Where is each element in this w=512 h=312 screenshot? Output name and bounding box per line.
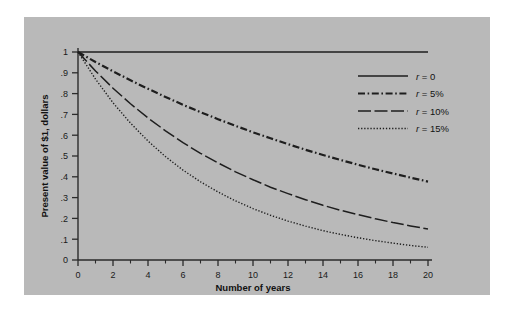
y-axis-title: Present value of $1, dollars <box>39 94 50 217</box>
y-tick-label: .4 <box>60 172 68 182</box>
y-tick-label: .9 <box>60 68 68 78</box>
x-tick-label: 18 <box>388 270 398 280</box>
y-tick-label: .7 <box>60 110 68 120</box>
x-axis-title: Number of years <box>216 282 291 293</box>
x-tick-label: 20 <box>423 270 433 280</box>
series-line-1 <box>78 52 428 182</box>
y-tick-label: .2 <box>60 214 68 224</box>
x-tick-label: 8 <box>215 270 220 280</box>
y-tick-label: .5 <box>60 151 68 161</box>
x-tick-label: 12 <box>283 270 293 280</box>
legend-value-1: = 5% <box>419 88 444 99</box>
y-tick-label: .8 <box>60 89 68 99</box>
x-tick-label: 2 <box>110 270 115 280</box>
y-tick-label: .1 <box>60 235 68 245</box>
legend-value-0: = 0 <box>419 71 435 82</box>
figure-container: 0.1.2.3.4.5.6.7.8.9102468101214161820Num… <box>0 0 512 312</box>
x-tick-label: 4 <box>145 270 150 280</box>
legend-label-3: r = 15% <box>416 123 450 134</box>
x-tick-label: 16 <box>353 270 363 280</box>
y-tick-label: .3 <box>60 193 68 203</box>
legend-value-3: = 15% <box>419 123 449 134</box>
legend-value-2: = 10% <box>419 106 449 117</box>
legend-label-2: r = 10% <box>416 106 450 117</box>
x-tick-label: 14 <box>318 270 328 280</box>
x-tick-label: 0 <box>75 270 80 280</box>
x-tick-label: 10 <box>248 270 258 280</box>
y-tick-label: 0 <box>63 255 68 265</box>
y-tick-label: .6 <box>60 131 68 141</box>
y-tick-label: 1 <box>63 47 68 57</box>
x-tick-label: 6 <box>180 270 185 280</box>
chart-plot: 0.1.2.3.4.5.6.7.8.9102468101214161820Num… <box>0 0 512 312</box>
legend-label-1: r = 5% <box>416 88 444 99</box>
series-line-2 <box>78 52 428 229</box>
legend-label-0: r = 0 <box>416 71 435 82</box>
